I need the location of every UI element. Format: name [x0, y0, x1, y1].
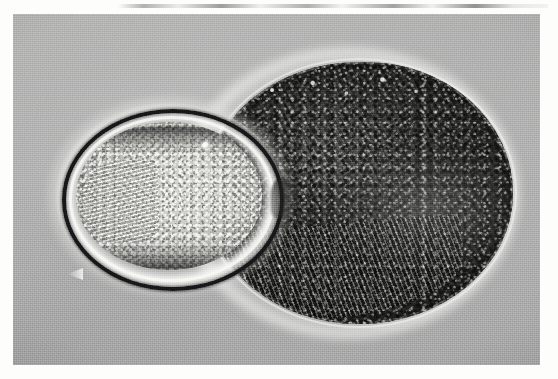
- page-canvas: [0, 0, 558, 379]
- film-grain-overlay: [13, 14, 540, 365]
- micrograph-plate: [13, 14, 540, 365]
- scan-smudge-artifact: [118, 4, 548, 8]
